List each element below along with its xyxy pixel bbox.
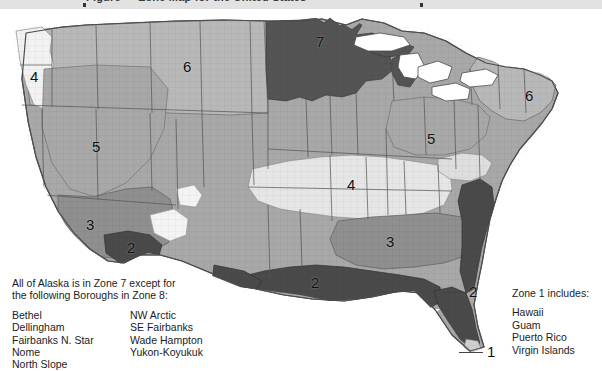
clip-artifact-dot-left [83, 3, 86, 7]
borough-columns: Bethel Dellingham Fairbanks N. Star Nome… [12, 309, 242, 371]
borough-item: Bethel [12, 309, 120, 321]
alaska-note-line-1: All of Alaska is in Zone 7 except for [12, 277, 242, 289]
borough-item: North Slope [12, 358, 120, 370]
alaska-note-block: All of Alaska is in Zone 7 except for th… [12, 277, 242, 371]
borough-item: Wade Hampton [130, 334, 203, 346]
zone-1-item: Virgin Islands [512, 344, 600, 356]
zone-1-item: Guam [512, 319, 600, 331]
zone-1-note-title: Zone 1 includes: [512, 287, 600, 299]
alaska-note-lead: All of Alaska is in Zone 7 except for th… [12, 277, 242, 302]
borough-item: Yukon-Koyukuk [130, 346, 203, 358]
clipped-title-text: Figure — Zone Map for the United States [86, 0, 306, 3]
borough-column-2: NW Arctic SE Fairbanks Wade Hampton Yuko… [130, 309, 203, 371]
borough-item: Dellingham [12, 321, 120, 333]
borough-item: Fairbanks N. Star [12, 334, 120, 346]
clip-artifact-dot-right [420, 3, 423, 7]
clipped-title-banner: Figure — Zone Map for the United States [0, 0, 602, 9]
leader-line-zone-1-keys [459, 352, 483, 353]
borough-item: NW Arctic [130, 309, 203, 321]
zone-1-item: Puerto Rico [512, 331, 600, 343]
zone-1-note-block: Zone 1 includes: Hawaii Guam Puerto Rico… [512, 287, 600, 356]
leader-line-zone-2-florida [443, 292, 466, 293]
zone-1-item: Hawaii [512, 306, 600, 318]
borough-item: SE Fairbanks [130, 321, 203, 333]
borough-column-1: Bethel Dellingham Fairbanks N. Star Nome… [12, 309, 120, 371]
alaska-note-line-2: the following Boroughs in Zone 8: [12, 289, 242, 301]
borough-item: Nome [12, 346, 120, 358]
